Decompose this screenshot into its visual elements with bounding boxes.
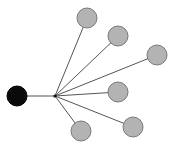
edge-hub-leaf-2 bbox=[55, 36, 118, 96]
star-graph-diagram bbox=[0, 0, 175, 149]
leaf-node bbox=[71, 121, 91, 141]
leaf-node bbox=[123, 117, 143, 137]
nodes bbox=[7, 8, 167, 141]
root-node bbox=[7, 86, 27, 106]
edge-hub-leaf-3 bbox=[55, 55, 157, 96]
edge-hub-leaf-1 bbox=[55, 18, 87, 96]
edges bbox=[17, 18, 157, 131]
leaf-node bbox=[147, 45, 167, 65]
leaf-node bbox=[108, 82, 128, 102]
hub-point bbox=[53, 94, 56, 97]
leaf-node bbox=[108, 26, 128, 46]
leaf-node bbox=[77, 8, 97, 28]
